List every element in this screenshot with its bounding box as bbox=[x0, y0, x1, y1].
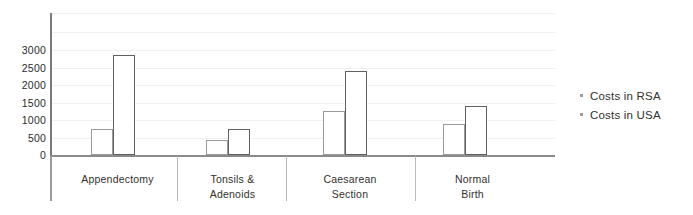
category-label-line: Adenoids bbox=[185, 187, 280, 202]
legend-marker-icon bbox=[580, 113, 583, 116]
y-tick-label: 2500 bbox=[22, 63, 46, 74]
y-tick-label: 1000 bbox=[22, 115, 46, 126]
x-axis-left-separator bbox=[50, 156, 52, 201]
bar-rsa bbox=[323, 111, 345, 155]
chart-legend: Costs in RSA Costs in USA bbox=[580, 86, 690, 124]
group-separator bbox=[286, 156, 287, 201]
legend-marker-icon bbox=[580, 94, 583, 97]
x-axis-line bbox=[50, 155, 555, 157]
category-label: Appendectomy bbox=[60, 172, 175, 187]
gridline bbox=[50, 50, 555, 51]
category-label-line: Caesarean bbox=[295, 172, 405, 187]
category-label: Tonsils & Adenoids bbox=[185, 172, 280, 202]
category-label: Caesarean Section bbox=[295, 172, 405, 202]
y-tick-label: 1500 bbox=[22, 98, 46, 109]
category-label-line: Appendectomy bbox=[60, 172, 175, 187]
bar-usa bbox=[465, 106, 487, 155]
y-axis-line bbox=[50, 13, 52, 155]
group-separator bbox=[415, 156, 416, 201]
category-label-line: Normal bbox=[425, 172, 520, 187]
legend-item-costs-in-usa: Costs in USA bbox=[580, 105, 690, 124]
y-tick-label: 0 bbox=[40, 150, 46, 161]
chart-page: 3000 2500 2000 1500 1000 500 0 Appendect… bbox=[0, 0, 693, 215]
category-label-line: Section bbox=[295, 187, 405, 202]
legend-label: Costs in USA bbox=[590, 109, 661, 121]
legend-item-costs-in-rsa: Costs in RSA bbox=[580, 86, 690, 105]
bar-chart: 3000 2500 2000 1500 1000 500 0 Appendect… bbox=[0, 0, 560, 215]
bar-usa bbox=[113, 55, 135, 155]
group-separator bbox=[177, 156, 178, 201]
category-label-line: Birth bbox=[425, 187, 520, 202]
bar-rsa bbox=[206, 140, 228, 155]
bar-usa bbox=[228, 129, 250, 155]
category-label-line: Tonsils & bbox=[185, 172, 280, 187]
y-tick-label: 3000 bbox=[22, 45, 46, 56]
bar-rsa bbox=[443, 124, 465, 155]
y-axis-labels: 3000 2500 2000 1500 1000 500 0 bbox=[0, 0, 46, 215]
bar-usa bbox=[345, 71, 367, 155]
y-tick-label: 2000 bbox=[22, 80, 46, 91]
category-label: Normal Birth bbox=[425, 172, 520, 202]
legend-label: Costs in RSA bbox=[590, 90, 661, 102]
gridline bbox=[50, 13, 555, 14]
bar-rsa bbox=[91, 129, 113, 155]
y-tick-label: 500 bbox=[28, 133, 46, 144]
gridline bbox=[50, 32, 555, 33]
